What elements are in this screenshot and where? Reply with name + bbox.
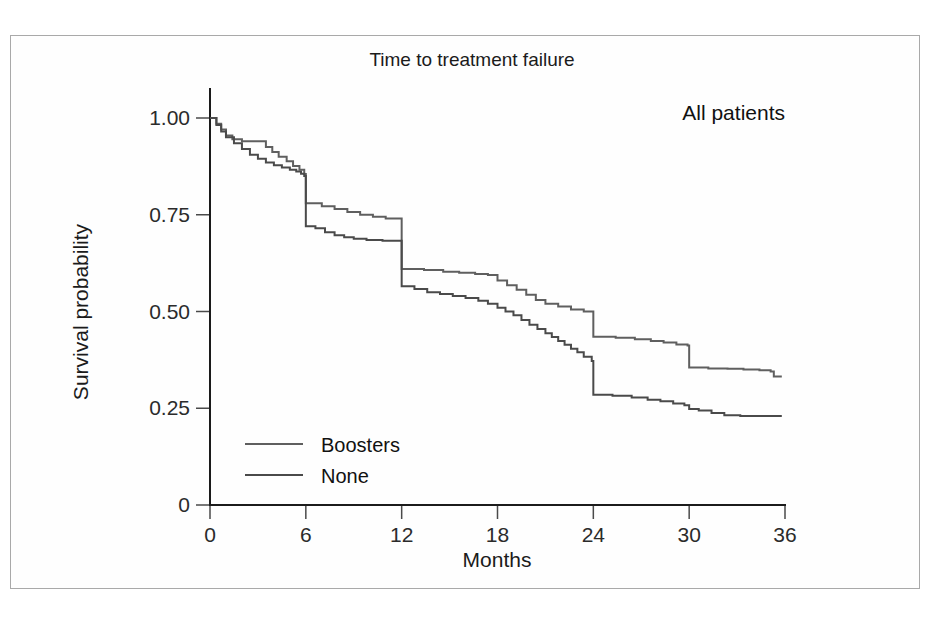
y-tick-label: 0.25 (149, 396, 190, 419)
chart-svg: Time to treatment failure All patients S… (0, 0, 941, 617)
x-tick-label: 12 (390, 523, 413, 546)
x-tick-label: 24 (582, 523, 606, 546)
chart-title: Time to treatment failure (369, 49, 574, 70)
y-tick-label: 1.00 (149, 106, 190, 129)
y-axis-title: Survival probability (69, 223, 92, 400)
km-curve-none (210, 118, 782, 416)
km-curve-boosters (210, 118, 782, 377)
x-axis-title: Months (463, 548, 532, 571)
legend-label-none: None (321, 465, 369, 487)
chart-legend: BoostersNone (245, 434, 400, 487)
y-tick-label: 0.50 (149, 300, 190, 323)
x-axis-ticks: 061218243036 (204, 505, 797, 546)
panel-annotation: All patients (682, 101, 785, 124)
survival-chart: Time to treatment failure All patients S… (0, 0, 941, 617)
km-curves (210, 118, 782, 416)
x-tick-label: 6 (300, 523, 312, 546)
legend-label-boosters: Boosters (321, 434, 400, 456)
x-tick-label: 30 (677, 523, 700, 546)
y-tick-label: 0 (178, 493, 190, 516)
x-tick-label: 0 (204, 523, 216, 546)
x-tick-label: 18 (486, 523, 509, 546)
x-tick-label: 36 (773, 523, 796, 546)
y-axis-ticks: 00.250.500.751.00 (149, 106, 210, 516)
y-tick-label: 0.75 (149, 203, 190, 226)
